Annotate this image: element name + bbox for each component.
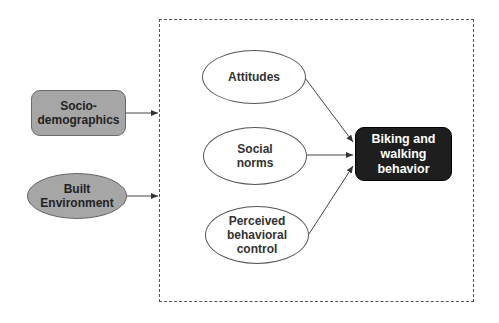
arrow-pbc-to-outcome [309,166,353,234]
diagram: Socio- demographics Built Environment At… [0,0,499,323]
arrow-attitudes-to-outcome [305,78,353,142]
node-social-norms: Social norms [203,127,307,185]
node-label: Socio- demographics [37,99,119,127]
node-label: Perceived behavioral control [227,214,287,256]
node-attitudes: Attitudes [202,50,306,104]
node-perceived-behavioral-control: Perceived behavioral control [205,206,309,264]
node-socio-demographics: Socio- demographics [31,90,126,136]
node-built-environment: Built Environment [27,173,127,219]
node-label: Social norms [237,142,274,170]
node-label: Built Environment [40,182,113,210]
node-biking-walking-behavior: Biking and walking behavior [355,127,452,181]
node-label: Attitudes [228,70,280,84]
node-label: Biking and walking behavior [372,132,436,177]
